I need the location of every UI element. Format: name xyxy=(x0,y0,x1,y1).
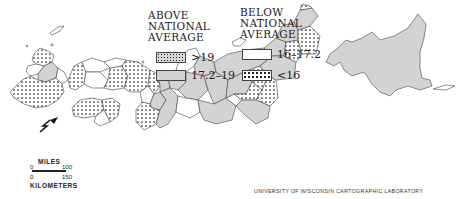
legend-item-17-2-to-19: 17.2–19 xyxy=(156,69,235,82)
north-arrow-icon xyxy=(38,116,60,134)
region-chugoku-hiroshima xyxy=(84,72,108,88)
legend-item-below-16: <16 xyxy=(242,69,300,82)
legend-swatch-sparse-dots xyxy=(242,70,272,81)
legend-swatch-dense-dots xyxy=(156,52,186,63)
region-hokkaido xyxy=(326,14,432,96)
legend-item-above-19: >19 xyxy=(156,51,214,64)
region-chugoku-yamaguchi xyxy=(68,62,86,90)
scale-line xyxy=(32,170,66,172)
legend-swatch-white xyxy=(242,49,272,60)
credit-text: UNIVERSITY OF WISCONSIN CARTOGRAPHIC LAB… xyxy=(254,188,423,194)
legend-item-16-to-17-2: 16–17.2 xyxy=(242,48,321,61)
region-kyushu-south xyxy=(10,76,64,108)
region-chugoku-shimane xyxy=(82,58,110,72)
legend-heading-below: BELOW NATIONAL AVERAGE xyxy=(240,7,302,40)
island-tsushima xyxy=(50,26,64,35)
legend-heading-above: ABOVE NATIONAL AVERAGE xyxy=(148,10,210,43)
region-kanto-tokyo-chiba xyxy=(236,100,270,124)
legend-swatch-gray xyxy=(156,70,186,81)
island-kunashiri xyxy=(433,85,455,90)
